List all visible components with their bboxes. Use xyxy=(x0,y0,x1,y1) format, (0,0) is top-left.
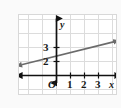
y-tick-label-3: 3 xyxy=(43,42,49,53)
x-tick-label-3: 3 xyxy=(95,79,101,90)
graph-figure: 3 2 O 1 2 3 y x xyxy=(0,0,121,108)
x-axis-label: x xyxy=(109,80,114,90)
x-tick-label-1: 1 xyxy=(67,79,73,90)
y-axis-label: y xyxy=(60,20,64,30)
y-tick-label-2: 2 xyxy=(43,56,49,67)
origin-label: O xyxy=(48,79,56,90)
x-tick-label-2: 2 xyxy=(81,79,87,90)
plot-area: 3 2 O 1 2 3 y x xyxy=(18,14,117,95)
